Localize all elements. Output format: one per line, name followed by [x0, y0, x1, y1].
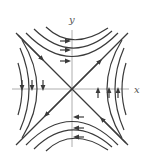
- top-trajectory: [46, 27, 108, 40]
- x-axis-label: x: [134, 84, 140, 95]
- top-trajectory: [34, 29, 112, 48]
- y-axis-label: y: [68, 14, 75, 25]
- bottom-trajectory: [46, 138, 108, 151]
- phase-portrait: x y: [0, 0, 142, 158]
- bottom-trajectory: [34, 130, 112, 149]
